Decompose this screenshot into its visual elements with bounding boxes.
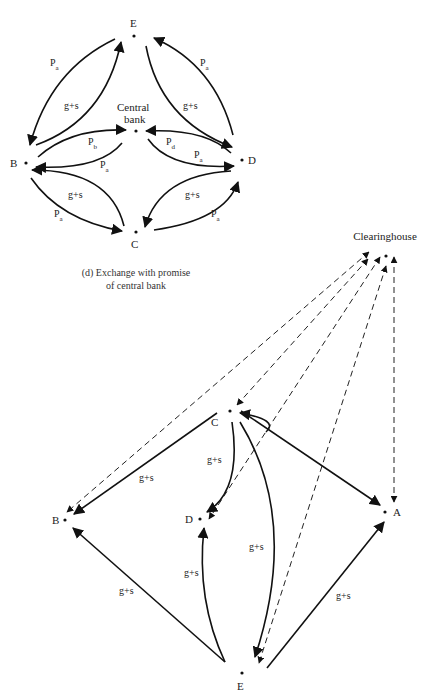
label-pa-e-d: Pa: [200, 57, 210, 72]
node-dot-d-bottom: [198, 517, 201, 520]
label-gs-c-d: g+s: [185, 189, 200, 200]
label-pb: Pb: [88, 136, 98, 151]
label-pa-c-d: Pa: [211, 208, 221, 223]
label-pd: Pd: [166, 136, 176, 151]
node-dot-a-bottom: [383, 510, 386, 513]
edge-d-to-e-pa: [154, 38, 233, 135]
node-label-a-bottom: A: [393, 506, 401, 518]
bottom-diagram: Clearinghouse C B D A E g+s g+s g+s g+s …: [52, 230, 417, 692]
edge-c-to-a: [241, 411, 380, 505]
label-gs-c-d: g+s: [207, 454, 222, 465]
label-gs-c-b: g+s: [139, 472, 154, 483]
label-gs-b-e: g+s: [64, 100, 79, 111]
diagram-canvas: E Central bank B D C Pa g+s Pa g+s Pb: [0, 0, 429, 698]
node-label-b-top: B: [10, 157, 17, 169]
label-pa-central-d: Pa: [194, 149, 204, 164]
node-dot-b-bottom: [63, 518, 66, 521]
node-label-central-bank-line1: Central: [117, 101, 149, 113]
node-dot-b-top: [24, 161, 27, 164]
edge-e-to-d: [202, 528, 225, 662]
edge-e-to-d-gs: [146, 46, 232, 147]
node-label-e-top: E: [130, 17, 137, 29]
node-dot-c-bottom: [228, 409, 231, 412]
dashed-clearinghouse-to-d: [209, 257, 380, 519]
node-dot-c-top: [134, 230, 137, 233]
node-label-e-bottom: E: [237, 680, 244, 692]
node-label-c-top: C: [131, 238, 138, 250]
label-gs-e-b: g+s: [119, 585, 134, 596]
label-gs-e-d: g+s: [183, 100, 198, 111]
label-pa-b-c: Pa: [54, 208, 64, 223]
node-dot-clearinghouse: [384, 254, 387, 257]
label-gs-b-c: g+s: [68, 189, 83, 200]
label-gs-e-d: g+s: [184, 567, 199, 578]
top-diagram: E Central bank B D C Pa g+s Pa g+s Pb: [10, 17, 256, 291]
label-pa-central-b: Pa: [100, 159, 110, 174]
edge-e-to-a: [267, 522, 384, 668]
node-dot-e-bottom: [240, 671, 243, 674]
label-gs-c-e: g+s: [249, 541, 264, 552]
label-gs-e-a: g+s: [336, 590, 351, 601]
edge-c-to-d: [207, 422, 234, 512]
edge-c-to-b: [74, 413, 217, 514]
node-label-c-bottom: C: [211, 416, 218, 428]
node-dot-central-bank: [134, 129, 137, 132]
edge-b-to-c-pa: [31, 178, 122, 231]
node-label-clearinghouse: Clearinghouse: [353, 230, 417, 242]
node-dot-d-top: [240, 158, 243, 161]
node-label-d-bottom: D: [185, 513, 193, 525]
node-label-b-bottom: B: [52, 514, 59, 526]
node-label-d-top: D: [248, 154, 256, 166]
edge-central-to-b-pa: [36, 143, 122, 167]
node-label-central-bank-line2: bank: [124, 113, 146, 125]
dashed-clearinghouse-to-e: [259, 266, 386, 663]
dashed-clearinghouse-to-b: [67, 252, 369, 512]
edge-c-to-e: [240, 422, 274, 657]
label-pa-b-e: Pa: [50, 57, 60, 72]
node-dot-e-top: [132, 34, 135, 37]
caption-line-2: of central bank: [106, 280, 166, 291]
caption-line-1: (d) Exchange with promise: [82, 267, 191, 279]
edge-b-to-central-pb: [38, 130, 126, 157]
